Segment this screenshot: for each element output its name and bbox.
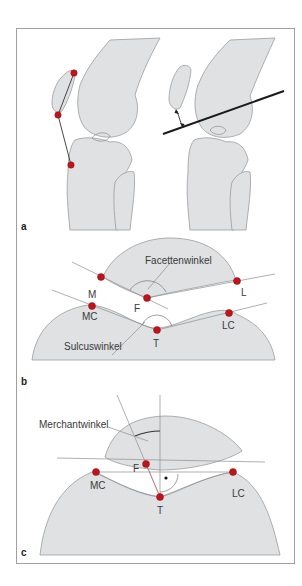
landmark-M [98,274,105,281]
arrowhead-up [175,109,180,114]
merchant-angle-label: Merchantwinkel [39,419,108,430]
label-MC: MC [82,311,98,322]
landmark-T [154,327,161,334]
landmark-MC [89,303,96,310]
label-MC-c: MC [90,480,106,491]
label-T: T [153,338,159,349]
landmark-T-c [157,494,164,501]
label-T-c: T [157,505,163,516]
landmark-patella-lower [55,112,61,118]
landmark-LC-c [230,469,237,476]
panel-b: Facettenwinkel Sulcuswinkel M L F MC LC … [21,238,275,387]
panel-label-b: b [21,376,27,387]
fibula-right [230,171,250,230]
label-F: F [134,303,140,314]
fibula-left [114,171,135,230]
panel-label-a: a [21,221,27,232]
panel-c: Merchantwinkel F MC LC T c [21,395,280,558]
patellar-tendon-line [58,115,71,165]
label-M: M [88,289,96,300]
landmark-patella-upper [71,70,77,76]
panel-a: a [21,38,284,232]
landmark-tibial-tubercle [68,162,74,168]
patella-axial-c [105,416,242,470]
femur-right [195,38,275,137]
sulcus-angle-arc [142,315,172,326]
label-L: L [241,287,247,298]
patella-axial-b [103,238,236,298]
facet-angle-label: Facettenwinkel [145,255,212,266]
femur-left [78,38,160,137]
landmark-F [144,295,151,302]
landmark-F-c [143,461,150,468]
patella-right [169,65,191,109]
label-F-c: F [133,463,139,474]
right-angle-dot [164,476,167,479]
sulcus-angle-label: Sulcuswinkel [64,341,122,352]
label-LC: LC [222,320,235,331]
right-angle-arc [160,474,178,492]
knee-measurement-figure: a Facettenwinkel Sulcuswinkel M L F MC L… [0,0,302,586]
landmark-L [234,278,241,285]
label-LC-c: LC [232,488,245,499]
landmark-LC [226,310,233,317]
panel-label-c: c [21,547,27,558]
landmark-MC-c [93,469,100,476]
